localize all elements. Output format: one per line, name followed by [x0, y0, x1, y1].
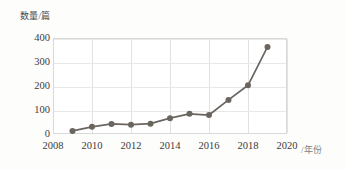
y-axis-title: 数量/篇: [20, 9, 50, 22]
x-axis-tick-label: 2008: [31, 141, 75, 152]
x-axis-tick-label: 2010: [70, 141, 114, 152]
gridline-vertical: [170, 39, 171, 133]
gridline-horizontal: [54, 87, 286, 88]
gridline-horizontal: [54, 39, 286, 40]
y-axis-tick-label: 0: [10, 129, 50, 140]
y-axis-tick-label: 200: [10, 81, 50, 92]
gridline-vertical: [131, 39, 132, 133]
x-axis-tick-label: 2012: [109, 141, 153, 152]
plot-area: [53, 38, 287, 134]
line-chart: 数量/篇 0100200300400 200820102012201420162…: [0, 0, 345, 170]
gridline-vertical: [248, 39, 249, 133]
y-axis-tick-label: 100: [10, 105, 50, 116]
x-axis-tick-label: 2016: [187, 141, 231, 152]
y-axis-tick-label: 300: [10, 57, 50, 68]
gridline-vertical: [287, 39, 288, 133]
gridline-horizontal: [54, 111, 286, 112]
y-axis-tick-label: 400: [10, 33, 50, 44]
x-axis-tick-label: 2018: [226, 141, 270, 152]
gridline-horizontal: [54, 63, 286, 64]
gridline-vertical: [92, 39, 93, 133]
x-axis-tick-label: 2014: [148, 141, 192, 152]
x-axis-title: /年份: [301, 143, 322, 156]
gridline-vertical: [209, 39, 210, 133]
